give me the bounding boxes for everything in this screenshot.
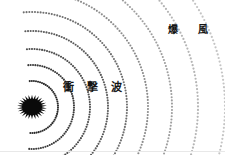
blast-wind-label: 爆風 xyxy=(168,25,225,35)
explosion-burst-icon xyxy=(17,95,47,120)
shockwave-diagram: 衝撃波 爆風 xyxy=(0,0,225,155)
bottom-divider xyxy=(0,151,225,152)
shockwave-label: 衝撃波 xyxy=(63,82,135,93)
